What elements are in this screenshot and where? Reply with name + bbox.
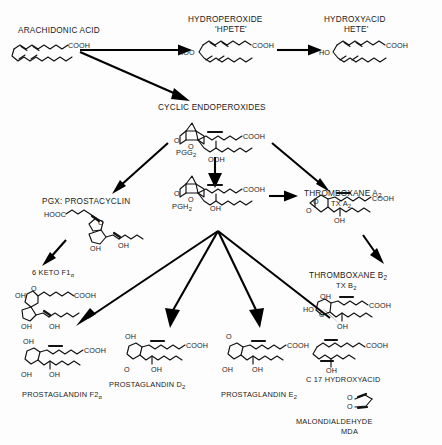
label-c17-hydroxyacid: C 17 HYDROXYACID bbox=[306, 376, 381, 384]
atom-pgh2-cooh: COOH bbox=[243, 185, 265, 194]
atom-pge2-oh-chain: OH bbox=[252, 365, 263, 374]
molecule-c17-hydroxyacid bbox=[313, 340, 365, 367]
label-prostaglandin-d2: PROSTAGLANDIN D2 bbox=[109, 381, 186, 390]
atom-pgd2-oh-chain: OH bbox=[151, 365, 162, 374]
arrow-endoperoxides-to-prostacyclin bbox=[112, 143, 168, 194]
atom-mda-o-top: O bbox=[347, 393, 353, 402]
atom-pgf2a-cooh: COOH bbox=[84, 346, 106, 355]
label-cyclic-endoperoxides: CYCLIC ENDOPEROXIDES bbox=[158, 104, 266, 113]
label-prostaglandin-e2: PROSTAGLANDIN E2 bbox=[221, 391, 297, 400]
arrow-arachidonic-to-hpete bbox=[80, 45, 192, 56]
label-pgg2: PGG2 bbox=[176, 149, 196, 158]
molecule-hpete bbox=[199, 41, 252, 62]
label-tx-b2: TX B2 bbox=[336, 282, 357, 291]
molecule-prostacyclin bbox=[66, 210, 143, 244]
atom-pge2-cooh: COOH bbox=[287, 341, 309, 350]
atom-pgh2-o-right: O bbox=[188, 195, 194, 204]
atom-prostacyclin-oh-ring: OH bbox=[90, 244, 101, 253]
arrow-arachidonic-to-endoperoxides bbox=[80, 52, 190, 101]
atom-txa2-cooh: COOH bbox=[372, 194, 394, 203]
atom-txb2-oh-chain: OH bbox=[337, 322, 348, 331]
atom-pgg2-ooh: OOH bbox=[208, 155, 225, 164]
atom-prostacyclin-oh-chain: OH bbox=[118, 241, 129, 250]
atom-pgd2-cooh: COOH bbox=[186, 341, 208, 350]
atom-txb2-cooh: COOH bbox=[369, 301, 391, 310]
atom-c17-oh: OH bbox=[326, 366, 337, 375]
label-malondialdehyde: MALONDIALDEHYDE bbox=[296, 418, 373, 426]
atom-txa2-o-top: O bbox=[313, 197, 319, 206]
label-6-keto-f1a: 6 KETO F1α bbox=[32, 269, 74, 278]
arrow-thromboxane-a2-to-b2 bbox=[363, 235, 384, 264]
label-prostaglandin-f2a: PROSTAGLANDIN F2α bbox=[22, 391, 102, 400]
arrow-pgh2-to-thromboxane-a2 bbox=[269, 191, 298, 202]
atom-pgg2-o-left: O bbox=[174, 136, 180, 145]
atom-pgf2a-oh-bottom: OH bbox=[21, 370, 32, 379]
molecule-malondialdehyde bbox=[355, 394, 372, 408]
atom-c17-cooh: COOH bbox=[366, 341, 388, 350]
atom-mda-o-bottom: O bbox=[347, 402, 353, 411]
atom-prostacyclin-o: O bbox=[98, 218, 104, 227]
atom-pgd2-oh-top: OH bbox=[125, 332, 136, 341]
arrow-pgh2-to-prostaglandin-d2 bbox=[165, 231, 218, 328]
atom-pge2-o: O bbox=[226, 332, 232, 341]
atom-6keto-oh-a: OH bbox=[15, 291, 26, 300]
label-prostacyclin: PGX: PROSTACYCLIN bbox=[42, 198, 130, 207]
atom-pgh2-o-left: O bbox=[174, 189, 180, 198]
atom-arachidonic-cooh: COOH bbox=[68, 41, 90, 50]
molecule-arachidonic-acid bbox=[12, 45, 72, 61]
atom-pgh2-oh: OH bbox=[210, 204, 221, 213]
atom-txb2-oh-ring: OH bbox=[320, 292, 331, 301]
molecule-hete bbox=[333, 41, 386, 62]
atom-hete-ho: HO bbox=[319, 48, 330, 57]
atom-pge2-oh-ring: OH bbox=[222, 365, 233, 374]
atom-6keto-cooh: COOH bbox=[74, 291, 96, 300]
molecule-6keto-f1a bbox=[22, 291, 79, 321]
atom-6keto-oh-c: OH bbox=[49, 322, 60, 331]
arrow-prostacyclin-to-6keto bbox=[42, 240, 66, 266]
arrow-pgh2-to-prostaglandin-e2 bbox=[218, 231, 264, 328]
label-arachidonic-acid: ARACHIDONIC ACID bbox=[18, 27, 100, 36]
arrow-hpete-to-hete bbox=[277, 45, 322, 56]
atom-6keto-o: O bbox=[31, 284, 37, 293]
label-hpete-abbrev: 'HPETE' bbox=[215, 26, 247, 35]
atom-pgf2a-oh-chain: OH bbox=[49, 370, 60, 379]
arrow-endoperoxides-to-thromboxane-a2 bbox=[272, 143, 330, 192]
atom-txa2-o-bottom: O bbox=[306, 206, 312, 215]
molecule-prostaglandin-f2a bbox=[25, 346, 83, 369]
atom-pgg2-cooh: COOH bbox=[243, 132, 265, 141]
atom-hpete-hoo: HOO bbox=[178, 48, 195, 57]
atom-6keto-oh-b: OH bbox=[21, 322, 32, 331]
label-hete-abbrev: HETE' bbox=[344, 26, 368, 35]
atom-pgf2a-oh-top: OH bbox=[23, 337, 34, 346]
molecule-prostaglandin-e2 bbox=[228, 341, 286, 364]
label-tx-a2: TX A2 bbox=[331, 200, 351, 209]
atom-txb2-o: O bbox=[319, 310, 325, 319]
molecule-prostaglandin-d2 bbox=[127, 341, 185, 364]
label-pgh2: PGH2 bbox=[172, 203, 192, 212]
atom-txb2-ho: HO bbox=[303, 305, 314, 314]
label-hpete-title: HYDROPEROXIDE bbox=[188, 16, 262, 25]
label-hete-title: HYDROXYACID bbox=[324, 16, 386, 25]
atom-hpete-cooh: COOH bbox=[252, 41, 274, 50]
atom-txa2-oh: OH bbox=[334, 216, 345, 225]
atom-prostacyclin-hooc: HOOC bbox=[44, 210, 66, 219]
atom-hete-cooh: COOH bbox=[386, 41, 408, 50]
atom-pgd2-o: O bbox=[124, 365, 130, 374]
label-mda-abbrev: MDA bbox=[341, 428, 358, 436]
